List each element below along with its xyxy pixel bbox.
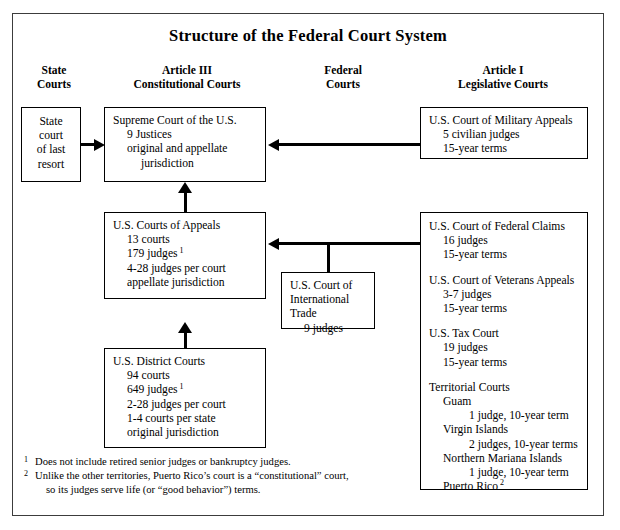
box-detail-text: 179 judges xyxy=(127,247,178,260)
box-detail: appellate jurisdiction xyxy=(113,276,257,290)
box-detail: 1-4 courts per state xyxy=(113,412,257,426)
connector-state-to-supreme-line xyxy=(81,143,95,146)
box-line: resort xyxy=(26,158,76,172)
box-heading: U.S. Court of Military Appeals xyxy=(429,114,579,128)
footnote-marker: 1 xyxy=(24,453,28,467)
box-detail: 15-year terms xyxy=(429,248,579,262)
box-detail: 15-year terms xyxy=(429,302,579,316)
box-us-courts-of-appeals: U.S. Courts of Appeals 13 courts 179 jud… xyxy=(104,212,266,299)
box-detail-text: 649 judges xyxy=(127,383,178,396)
box-heading: U.S. Court of Veterans Appeals xyxy=(429,274,579,288)
box-detail: 2-28 judges per court xyxy=(113,398,257,412)
box-supreme-court: Supreme Court of the U.S. 9 Justices ori… xyxy=(104,107,266,182)
connector-article1-to-appeals-line xyxy=(279,242,420,245)
column-header-line: Courts xyxy=(288,78,398,92)
box-heading: Supreme Court of the U.S. xyxy=(113,114,257,128)
box-heading: U.S. Court of xyxy=(290,279,366,293)
column-header-line: State xyxy=(16,64,92,78)
connector-appeals-to-supreme-line xyxy=(184,190,187,212)
box-detail: 13 courts xyxy=(113,233,257,247)
box-detail: 19 judges xyxy=(429,341,579,355)
connector-military-to-supreme-line xyxy=(279,143,420,146)
box-detail-with-footnote: 649 judges1 xyxy=(113,383,257,397)
box-us-district-courts: U.S. District Courts 94 courts 649 judge… xyxy=(104,348,266,448)
box-heading: U.S. Court of Federal Claims xyxy=(429,220,579,234)
box-detail-with-footnote: 179 judges1 xyxy=(113,247,257,261)
territorial-entry-name: Virgin Islands xyxy=(429,423,579,437)
box-detail: original and appellate xyxy=(113,142,257,156)
connector-appeals-to-supreme-arrowhead xyxy=(178,182,192,193)
column-header-line: Federal xyxy=(288,64,398,78)
footnote-marker: 2 xyxy=(498,478,504,487)
box-detail: 16 judges xyxy=(429,234,579,248)
column-header-line: Article III xyxy=(100,64,274,78)
column-header-state-courts: State Courts xyxy=(16,64,92,91)
column-header-article-iii: Article III Constitutional Courts xyxy=(100,64,274,91)
box-detail: original jurisdiction xyxy=(113,426,257,440)
column-header-line: Courts xyxy=(16,78,92,92)
column-header-article-i: Article I Legislative Courts xyxy=(408,64,598,91)
connector-district-to-appeals-arrowhead xyxy=(178,322,192,333)
territorial-entry-name: Northern Mariana Islands xyxy=(429,452,579,466)
box-line: court xyxy=(26,129,76,143)
box-heading: U.S. District Courts xyxy=(113,355,257,369)
box-detail: 94 courts xyxy=(113,369,257,383)
box-article-i-legislative-courts: U.S. Court of Federal Claims 16 judges 1… xyxy=(420,212,588,490)
box-detail: 15-year terms xyxy=(429,142,579,156)
column-header-federal-courts: Federal Courts xyxy=(288,64,398,91)
footnote-marker: 1 xyxy=(178,382,184,391)
box-detail: 4-28 judges per court xyxy=(113,262,257,276)
territorial-entry-detail: 1 judge, 10-year term xyxy=(429,466,579,480)
box-heading: U.S. Tax Court xyxy=(429,327,579,341)
footnote-text: Unlike the other territories, Puerto Ric… xyxy=(35,470,349,481)
column-header-line: Constitutional Courts xyxy=(100,78,274,92)
box-detail: jurisdiction xyxy=(113,157,257,171)
footnote-marker: 2 xyxy=(24,467,28,481)
territorial-entry-name: Guam xyxy=(429,395,579,409)
column-header-line: Article I xyxy=(408,64,598,78)
footnote-text: Does not include retired senior judges o… xyxy=(35,456,291,467)
connector-article1-to-appeals-arrowhead xyxy=(268,238,279,250)
footnote-marker: 1 xyxy=(178,246,184,255)
footnote-item: 1 Does not include retired senior judges… xyxy=(24,455,414,469)
territorial-entry-detail: 1 judge, 10-year term xyxy=(429,409,579,423)
spacer xyxy=(429,263,579,274)
box-line: State xyxy=(26,115,76,129)
box-us-court-of-international-trade: U.S. Court of International Trade 9 judg… xyxy=(281,272,375,329)
box-line: of last xyxy=(26,143,76,157)
spacer xyxy=(429,370,579,381)
box-state-court-of-last-resort: State court of last resort xyxy=(21,107,81,182)
territorial-entry-text: Puerto Rico xyxy=(443,480,498,493)
figure-canvas: Structure of the Federal Court System St… xyxy=(0,0,620,530)
page-title: Structure of the Federal Court System xyxy=(12,26,604,46)
box-detail: 15-year terms xyxy=(429,356,579,370)
footnote-text-continued: so its judges serve life (or “good behav… xyxy=(35,483,414,497)
footnotes: 1 Does not include retired senior judges… xyxy=(24,455,414,497)
box-heading: International Trade xyxy=(290,293,366,321)
territorial-entry-detail: 2 judges, 10-year terms xyxy=(429,438,579,452)
box-heading: U.S. Courts of Appeals xyxy=(113,219,257,233)
footnote-item: 2 Unlike the other territories, Puerto R… xyxy=(24,469,414,497)
box-heading: Territorial Courts xyxy=(429,381,579,395)
spacer xyxy=(429,316,579,327)
column-header-line: Legislative Courts xyxy=(408,78,598,92)
connector-state-to-supreme-arrowhead xyxy=(94,139,105,151)
box-detail: 9 judges xyxy=(290,322,366,336)
box-detail: 3-7 judges xyxy=(429,288,579,302)
territorial-entry-name-with-footnote: Puerto Rico2 xyxy=(429,480,579,494)
connector-military-to-supreme-arrowhead xyxy=(268,139,279,151)
connector-intl-trade-stem xyxy=(327,242,330,272)
box-detail: 9 Justices xyxy=(113,128,257,142)
box-us-court-of-military-appeals: U.S. Court of Military Appeals 5 civilia… xyxy=(420,107,588,159)
box-detail: 5 civilian judges xyxy=(429,128,579,142)
